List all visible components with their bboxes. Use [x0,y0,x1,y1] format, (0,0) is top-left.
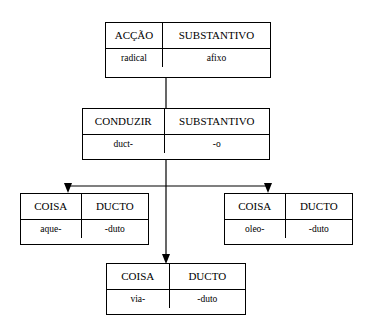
node-level2: CONDUZIR SUBSTANTIVO duct- -o [82,108,270,160]
node-leaf-bottom-top-left: COISA [107,264,170,289]
node-leaf-left-bottom-left: aque- [21,220,82,238]
node-leaf-bottom-top-right: DUCTO [170,264,245,289]
node-leaf-left-top-left: COISA [21,194,82,219]
node-leaf-left: COISA DUCTO aque- -duto [20,193,149,245]
node-leaf-bottom-top-row: COISA DUCTO [107,264,245,290]
node-leaf-right-bottom-right: -duto [286,220,352,238]
node-leaf-right-top-right: DUCTO [286,194,352,219]
node-root-bottom-right: afixo [163,49,270,67]
node-level2-top-row: CONDUZIR SUBSTANTIVO [83,109,269,135]
node-leaf-bottom-bottom-left: via- [107,290,170,308]
node-leaf-right-bottom-row: oleo- -duto [225,220,352,238]
node-leaf-right-bottom-left: oleo- [225,220,286,238]
node-leaf-right: COISA DUCTO oleo- -duto [224,193,353,245]
node-leaf-bottom-bottom-right: -duto [170,290,245,308]
node-leaf-right-top-left: COISA [225,194,286,219]
node-level2-top-left: CONDUZIR [83,109,165,134]
node-leaf-left-bottom-row: aque- -duto [21,220,148,238]
morphology-tree-diagram: ACÇÃO SUBSTANTIVO radical afixo CONDUZIR… [0,0,377,335]
node-level2-top-right: SUBSTANTIVO [165,109,269,134]
node-leaf-left-top-row: COISA DUCTO [21,194,148,220]
node-leaf-left-top-right: DUCTO [82,194,148,219]
node-root-top-row: ACÇÃO SUBSTANTIVO [106,23,270,49]
node-leaf-right-top-row: COISA DUCTO [225,194,352,220]
node-root-bottom-left: radical [106,49,163,67]
node-leaf-bottom-bottom-row: via- -duto [107,290,245,308]
node-level2-bottom-row: duct- -o [83,135,269,153]
node-root-top-right: SUBSTANTIVO [163,23,270,48]
node-root: ACÇÃO SUBSTANTIVO radical afixo [105,22,271,78]
node-level2-bottom-right: -o [165,135,269,153]
node-leaf-bottom: COISA DUCTO via- -duto [106,263,246,315]
node-root-top-left: ACÇÃO [106,23,163,48]
node-root-bottom-row: radical afixo [106,49,270,67]
node-level2-bottom-left: duct- [83,135,165,153]
node-leaf-left-bottom-right: -duto [82,220,148,238]
